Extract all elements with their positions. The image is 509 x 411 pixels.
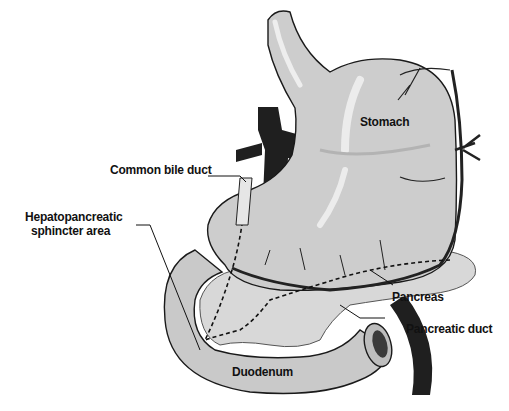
label-common-bile-duct: Common bile duct xyxy=(110,163,211,177)
label-pancreas: Pancreas xyxy=(392,290,444,304)
label-duodenum: Duodenum xyxy=(232,365,293,379)
label-sphincter-line1: Hepatopancreatic xyxy=(25,210,123,224)
label-sphincter-line2: sphincter area xyxy=(31,224,110,238)
anatomy-diagram xyxy=(0,0,509,411)
label-pancreatic-duct: Pancreatic duct xyxy=(406,322,492,336)
label-stomach: Stomach xyxy=(360,115,409,129)
